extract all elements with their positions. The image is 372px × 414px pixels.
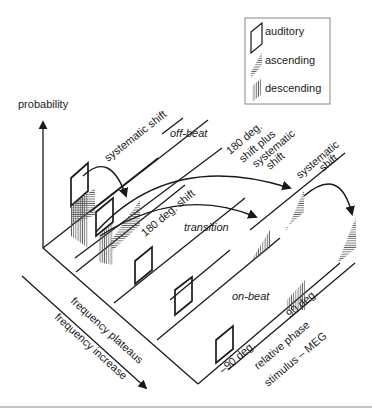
- y-axis-label: probability: [18, 98, 69, 110]
- transition-label: transition: [184, 221, 229, 233]
- descending-hatch-transition: [252, 230, 270, 262]
- auditory-transition-icon: [135, 247, 152, 284]
- legend: auditory ascending descending: [245, 18, 330, 104]
- off-beat-label: off-beat: [170, 127, 208, 139]
- legend-auditory-label: auditory: [265, 25, 305, 37]
- auditory-onbeat-icon: [175, 277, 192, 315]
- ascending-hatch-right1: [286, 190, 304, 232]
- ascending-hatch-offbeat: [71, 188, 95, 225]
- systematic-shift-arrow-2: [304, 184, 352, 214]
- ascending-hatch-shifted: [110, 200, 140, 250]
- legend-descending-label: descending: [265, 82, 321, 94]
- ascending-hatch-right2: [338, 217, 356, 263]
- on-beat-label: on-beat: [232, 290, 270, 302]
- systematic-shift-label: systematic shift: [102, 108, 169, 164]
- legend-ascending-label: ascending: [265, 54, 315, 66]
- phase-diagram: auditory ascending descending probabilit…: [0, 0, 372, 414]
- systematic-shift-arrow-1: [83, 167, 126, 196]
